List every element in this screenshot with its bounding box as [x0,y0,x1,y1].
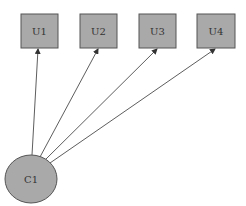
edge-c1-u4 [50,49,215,163]
node-c1: C1 [5,155,57,203]
edge-c1-u1 [32,49,38,155]
edge-c1-u2 [40,49,98,157]
edge-c1-u3 [45,49,157,160]
node-u2-label: U2 [91,26,106,37]
node-u4-label: U4 [209,26,224,37]
node-u3: U3 [139,14,176,48]
node-u3-label: U3 [150,26,165,37]
node-u2: U2 [80,14,117,48]
node-u1-label: U1 [32,26,47,37]
node-u4: U4 [197,14,235,48]
diagram-canvas: U1 U2 U3 U4 C1 [0,0,246,206]
node-c1-label: C1 [24,174,38,185]
node-u1: U1 [21,14,58,48]
